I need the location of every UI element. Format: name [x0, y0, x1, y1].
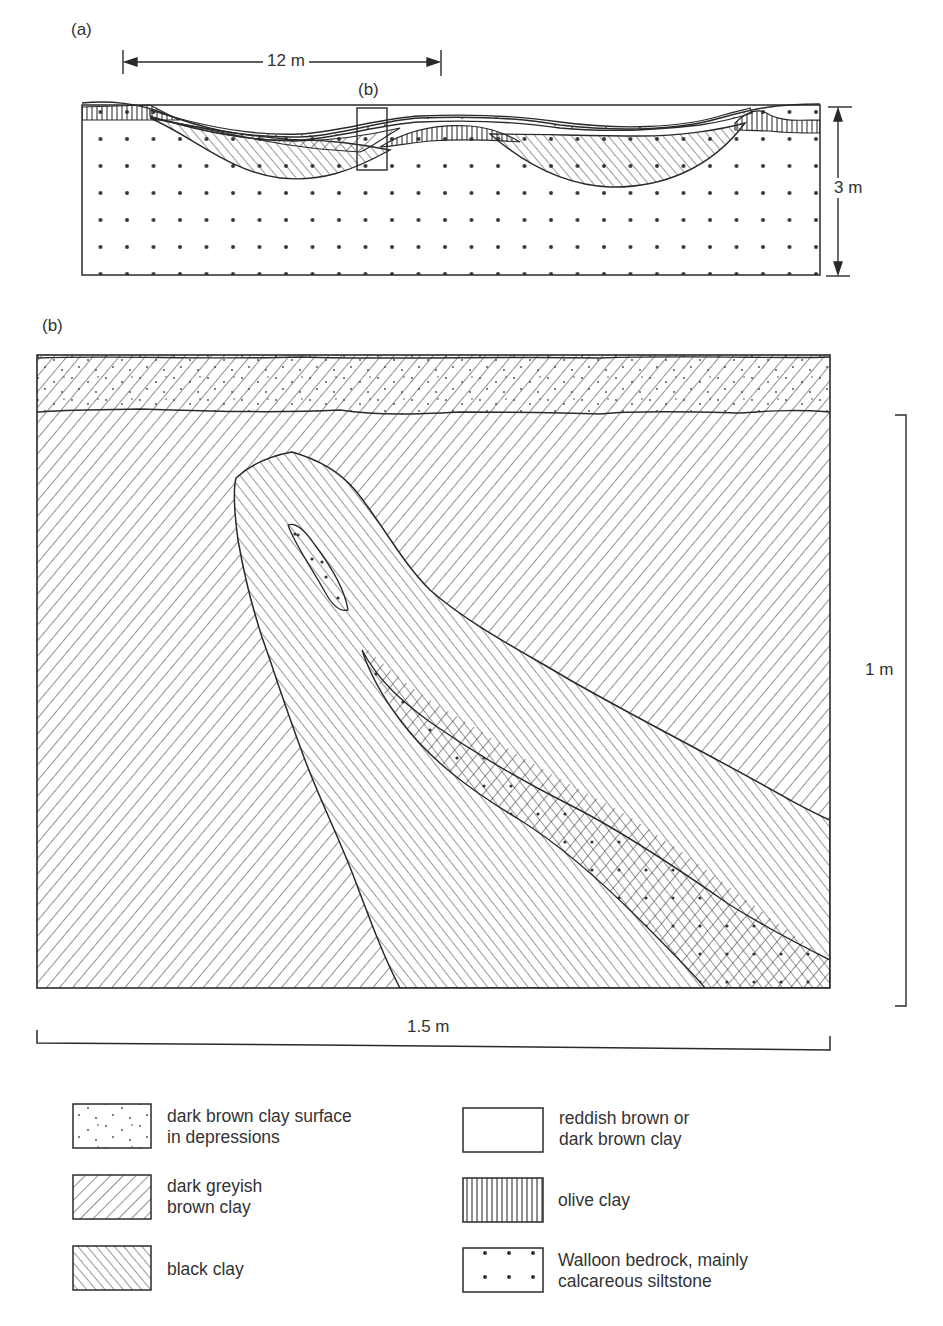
swatch-forward-hatch — [73, 1175, 151, 1219]
swatch-blank — [463, 1108, 543, 1152]
panel-a-label: (a) — [71, 20, 92, 40]
swatch-vertical-lines — [463, 1178, 543, 1222]
legend-item-black-clay: black clay — [167, 1259, 244, 1280]
legend-item-walloon-bedrock: Walloon bedrock, mainly calcareous silts… — [558, 1250, 748, 1292]
height-dimension-label: 3 m — [830, 178, 866, 198]
inset-box-label: (b) — [358, 80, 379, 100]
legend-item-dark-greyish-brown-clay: dark greyish brown clay — [167, 1176, 262, 1218]
panel-a-section — [82, 95, 820, 275]
legend-item-dark-brown-clay-surface: dark brown clay surface in depressions — [167, 1106, 352, 1148]
swatch-fine-dots — [73, 1104, 151, 1148]
swatch-coarse-dots — [463, 1248, 543, 1292]
width-dimension-label: 12 m — [263, 51, 309, 71]
legend-item-reddish-brown-clay: reddish brown or dark brown clay — [559, 1108, 689, 1150]
height-scale-label: 1 m — [865, 660, 893, 680]
panel-b-section — [37, 355, 830, 988]
swatch-back-hatch — [73, 1246, 151, 1290]
width-scale-label: 1.5 m — [407, 1017, 450, 1037]
legend-item-olive-clay: olive clay — [558, 1190, 630, 1211]
scale-1m-bracket — [895, 415, 906, 1006]
figure-canvas — [0, 0, 943, 1326]
panel-b-label: (b) — [42, 316, 63, 336]
